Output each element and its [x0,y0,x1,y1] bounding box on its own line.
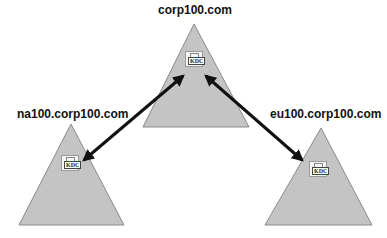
kdc-text: KDC [188,57,205,65]
kdc-text: KDC [312,167,329,175]
root-domain-triangle [143,24,249,127]
root-domain-label: corp100.com [158,3,232,17]
root-kdc-icon: KDC [185,51,203,67]
domain-trust-diagram: corp100.com na100.corp100.com eu100.corp… [0,0,387,238]
na-domain-label: na100.corp100.com [17,107,128,121]
na-kdc-icon: KDC [61,155,79,171]
eu-kdc-icon: KDC [309,161,327,177]
kdc-text: KDC [64,161,81,169]
eu-domain-label: eu100.corp100.com [270,107,381,121]
